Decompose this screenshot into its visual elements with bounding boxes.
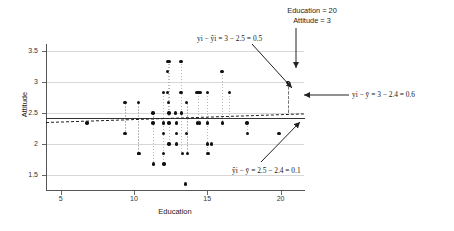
data-point xyxy=(151,121,154,124)
data-point xyxy=(179,60,182,63)
x-tick-label: 20 xyxy=(271,195,291,202)
data-point xyxy=(228,91,231,94)
callout-line-2: Attitude = 3 xyxy=(247,16,377,26)
data-point xyxy=(167,142,170,145)
data-point xyxy=(175,132,178,135)
data-point xyxy=(167,60,170,63)
figure-scatter-anova-decomposition: 1.522.533.55101520 Education Attitude Ed… xyxy=(0,0,454,231)
data-point xyxy=(221,121,224,124)
data-point xyxy=(245,121,248,124)
data-point xyxy=(181,152,184,155)
data-point xyxy=(184,182,187,185)
data-point xyxy=(179,91,182,94)
data-point xyxy=(206,142,209,145)
callout-line-1: Education = 20 xyxy=(247,6,377,16)
data-point xyxy=(206,152,209,155)
residual-line xyxy=(138,103,139,154)
residual-label: yi − ŷi = 3 − 2.5 = 0.5 xyxy=(197,34,262,43)
x-tick-label: 5 xyxy=(51,195,71,202)
data-point xyxy=(162,132,165,135)
data-point xyxy=(175,142,178,145)
data-point xyxy=(162,152,165,155)
highlight-dashed-line xyxy=(288,82,289,113)
data-point xyxy=(246,132,249,135)
data-point xyxy=(167,111,170,114)
data-point xyxy=(185,132,188,135)
data-point xyxy=(186,152,189,155)
residual-line xyxy=(229,93,230,118)
data-point xyxy=(137,152,140,155)
y-tick-label: 2 xyxy=(16,140,38,147)
data-point xyxy=(167,121,170,124)
data-point xyxy=(180,111,183,114)
data-point xyxy=(174,111,177,114)
y-tick-label: 1.5 xyxy=(16,171,38,178)
x-tick-label: 15 xyxy=(197,195,217,202)
data-point xyxy=(162,91,165,94)
x-axis-line xyxy=(46,190,305,191)
data-point xyxy=(198,121,201,124)
callout-education-attitude: Education = 20 Attitude = 3 xyxy=(247,6,377,26)
x-axis-title: Education xyxy=(115,207,235,216)
residual-line xyxy=(181,61,182,153)
data-point xyxy=(185,101,188,104)
arrow-explained-deviation xyxy=(261,122,300,162)
data-point xyxy=(206,121,209,124)
data-point xyxy=(137,101,140,104)
data-point xyxy=(162,121,165,124)
data-point xyxy=(277,132,280,135)
y-tick-label: 3.5 xyxy=(16,47,38,54)
data-point xyxy=(198,91,201,94)
total-deviation-label: yi − ȳ = 3 − 2.4 = 0.6 xyxy=(352,90,415,99)
gridline-y xyxy=(46,51,304,52)
data-point xyxy=(123,132,126,135)
gridline-y xyxy=(46,82,304,83)
x-tick-label: 10 xyxy=(124,195,144,202)
data-point xyxy=(175,121,178,124)
y-axis-title: Attitude xyxy=(20,75,29,135)
residual-line xyxy=(187,103,188,154)
data-point xyxy=(123,101,126,104)
data-point xyxy=(206,91,209,94)
explained-deviation-label: ŷi − ȳ = 2.5 − 2.4 = 0.1 xyxy=(232,166,301,175)
data-point xyxy=(162,162,165,165)
data-point xyxy=(220,70,223,73)
data-point xyxy=(152,162,155,165)
data-point xyxy=(210,142,213,145)
residual-line xyxy=(125,103,126,118)
data-point xyxy=(151,111,154,114)
